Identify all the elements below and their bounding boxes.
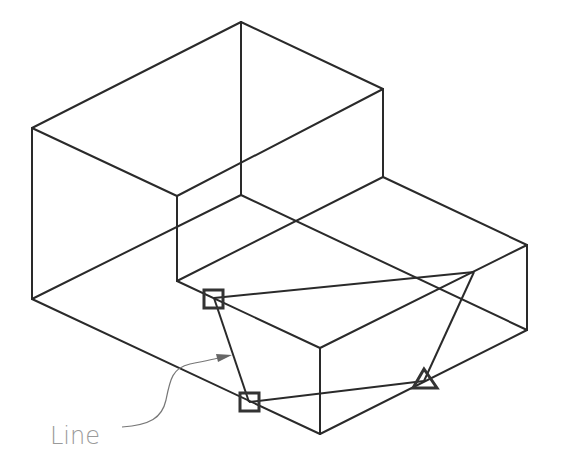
edge bbox=[241, 22, 383, 89]
line-label: Line bbox=[50, 422, 100, 450]
edge bbox=[383, 177, 527, 245]
edge bbox=[177, 89, 383, 196]
edge bbox=[241, 195, 527, 330]
isometric-drawing: Line bbox=[0, 0, 561, 466]
construction-line bbox=[214, 272, 474, 298]
edge bbox=[177, 177, 383, 281]
edge bbox=[32, 22, 241, 128]
edge bbox=[177, 281, 320, 348]
edge bbox=[320, 245, 527, 348]
construction-line bbox=[424, 272, 474, 381]
construction-line bbox=[249, 381, 424, 402]
object-edges bbox=[32, 22, 527, 434]
leader bbox=[122, 354, 232, 427]
edge bbox=[32, 128, 177, 196]
arrowhead-icon bbox=[216, 354, 232, 362]
edge bbox=[32, 299, 320, 434]
leader-line bbox=[122, 357, 222, 427]
edge bbox=[32, 195, 241, 299]
